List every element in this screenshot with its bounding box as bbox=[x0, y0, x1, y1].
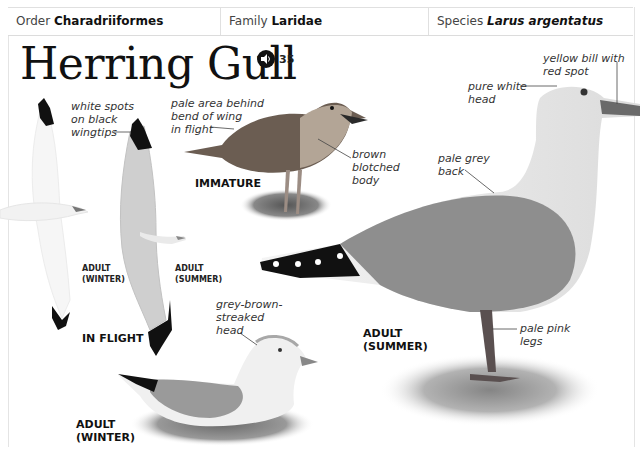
annotation-line: legs bbox=[520, 335, 570, 348]
annotation-line: back bbox=[438, 165, 490, 178]
annotation-line: bend of wing bbox=[171, 110, 264, 123]
flight-adult-summer-illustration bbox=[120, 118, 186, 356]
annotation-brown-blotched-body: brown blotched body bbox=[352, 148, 400, 187]
caption-line: (SUMMER) bbox=[175, 274, 222, 285]
audio-track-number: 35 bbox=[279, 53, 294, 66]
caption-line: ADULT bbox=[76, 418, 135, 431]
caption-in-flight: IN FLIGHT bbox=[82, 332, 143, 345]
annotation-pure-white-head: pure white head bbox=[468, 80, 527, 106]
caption-line: (WINTER) bbox=[82, 274, 125, 285]
annotation-line: on black bbox=[71, 113, 134, 126]
caption-line: ADULT bbox=[82, 263, 125, 274]
caption-line: (SUMMER) bbox=[363, 340, 428, 353]
caption-adult-winter: ADULT (WINTER) bbox=[76, 418, 135, 444]
audio-badge[interactable]: 35 bbox=[257, 50, 294, 68]
caption-line: ADULT bbox=[363, 327, 428, 340]
annotation-yellow-bill: yellow bill with red spot bbox=[543, 52, 625, 78]
annotation-line: pure white bbox=[468, 80, 527, 93]
annotation-line: pale pink bbox=[520, 322, 570, 335]
annotation-line: red spot bbox=[543, 65, 625, 78]
caption-flight-adult-winter: ADULT (WINTER) bbox=[82, 263, 125, 285]
adult-winter-gull-illustration bbox=[118, 336, 318, 446]
annotation-line: pale area behind bbox=[171, 97, 264, 110]
caption-line: ADULT bbox=[175, 263, 222, 274]
annotation-line: head bbox=[216, 324, 283, 337]
annotation-line: blotched bbox=[352, 161, 400, 174]
field-guide-page: Order Charadriiformes Family Laridae Spe… bbox=[0, 0, 642, 452]
annotation-line: streaked bbox=[216, 311, 283, 324]
annotation-line: in flight bbox=[171, 123, 264, 136]
annotation-grey-brown-streaked-head: grey-brown- streaked head bbox=[216, 298, 283, 337]
annotation-pale-grey-back: pale grey back bbox=[438, 152, 490, 178]
caption-adult-summer: ADULT (SUMMER) bbox=[363, 327, 428, 353]
annotation-pale-area: pale area behind bend of wing in flight bbox=[171, 97, 264, 136]
annotation-white-spots: white spots on black wingtips bbox=[71, 100, 134, 139]
caption-line: (WINTER) bbox=[76, 431, 135, 444]
page-title: Herring Gull bbox=[20, 36, 297, 92]
caption-flight-adult-summer: ADULT (SUMMER) bbox=[175, 263, 222, 285]
annotation-line: head bbox=[468, 93, 527, 106]
annotation-line: wingtips bbox=[71, 126, 134, 139]
annotation-line: body bbox=[352, 174, 400, 187]
annotation-line: yellow bill with bbox=[543, 52, 625, 65]
annotation-line: brown bbox=[352, 148, 400, 161]
annotation-line: grey-brown- bbox=[216, 298, 283, 311]
annotation-line: pale grey bbox=[438, 152, 490, 165]
annotation-line: white spots bbox=[71, 100, 134, 113]
caption-immature: IMMATURE bbox=[195, 177, 261, 190]
speaker-icon[interactable] bbox=[257, 50, 275, 68]
annotation-pale-pink-legs: pale pink legs bbox=[520, 322, 570, 348]
